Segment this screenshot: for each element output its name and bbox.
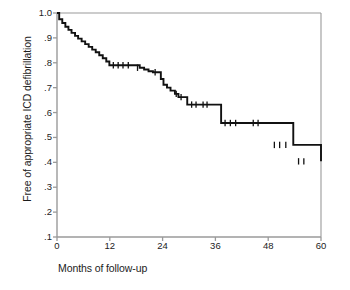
x-tick-label: 12 <box>95 241 125 251</box>
y-tick-label: .7 <box>26 83 52 93</box>
x-tick-label: 60 <box>306 241 336 251</box>
survival-chart-figure: Free of appropriate ICD defibrillation M… <box>0 0 350 290</box>
x-tick-label: 24 <box>148 241 178 251</box>
censor-marks <box>113 62 304 164</box>
y-tick-label: .2 <box>26 207 52 217</box>
y-tick-label: .6 <box>26 108 52 118</box>
x-tick-label: 0 <box>42 241 72 251</box>
axes <box>53 13 321 241</box>
x-axis-title: Months of follow-up <box>58 262 147 274</box>
x-tick-label: 48 <box>253 241 283 251</box>
y-tick-label: .5 <box>26 132 52 142</box>
y-tick-label: .3 <box>26 182 52 192</box>
x-tick-label: 36 <box>200 241 230 251</box>
x-axis-tick-labels: 01224364860 <box>0 241 350 255</box>
survival-curve <box>57 13 321 161</box>
y-tick-label: .4 <box>26 157 52 167</box>
y-tick-label: 1.0 <box>26 8 52 18</box>
y-tick-label: .8 <box>26 58 52 68</box>
y-tick-label: .9 <box>26 33 52 43</box>
